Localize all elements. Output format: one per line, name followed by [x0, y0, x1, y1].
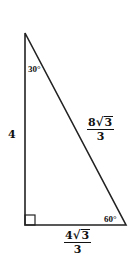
- side-label-vertical: 4: [8, 129, 16, 140]
- hypotenuse-label: 8 √ 3 3: [87, 116, 114, 142]
- sqrt-symbol: √: [73, 229, 81, 241]
- angle-label-60: 60°: [104, 215, 117, 224]
- right-angle-marker: [25, 215, 35, 225]
- hypotenuse-coef: 8: [88, 117, 96, 128]
- horizontal-leg-denominator: 3: [74, 243, 82, 255]
- horizontal-leg-coef: 4: [65, 230, 73, 241]
- horizontal-leg-radicand: 3: [81, 229, 91, 241]
- hypotenuse-radicand: 3: [104, 116, 114, 128]
- sqrt-symbol: √: [96, 116, 104, 128]
- hypotenuse-denominator: 3: [97, 130, 105, 142]
- angle-label-30: 30°: [28, 65, 41, 74]
- horizontal-leg-label: 4 √ 3 3: [64, 229, 91, 255]
